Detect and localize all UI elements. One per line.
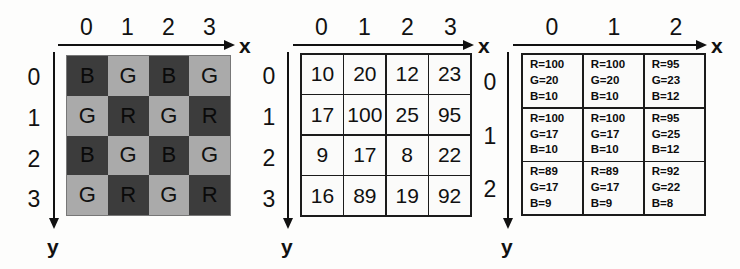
rgb-red-value: R=100 [530,57,564,73]
rgb-green-value: G=17 [530,180,558,196]
rgb-red-value: R=95 [652,57,680,73]
bayer-row-tick-3: 3 [22,188,46,211]
rgb-green-value: G=22 [652,180,680,196]
bayer-col-tick-2: 2 [148,16,189,39]
bayer-x-axis-label: x [239,35,251,56]
value-cell: 22 [429,136,470,175]
rgb-cell: R=100 G=20 B=10 [584,55,643,107]
value-cell: 16 [302,176,343,215]
rgb-y-axis-arrowhead [503,218,513,229]
rgb-blue-value: B=10 [530,142,558,158]
values-y-axis-label: y [281,236,293,257]
bayer-col-tick-1: 1 [107,16,148,39]
bayer-cell: B [67,136,108,176]
bayer-cell: G [108,136,149,176]
bayer-row-tick-2: 2 [22,148,46,171]
values-col-tick-1: 1 [343,16,386,39]
values-row-tick-1: 1 [257,106,281,129]
rgb-red-value: R=89 [530,164,558,180]
values-x-axis-arrowhead [463,40,474,50]
rgb-red-value: R=100 [591,57,625,73]
bayer-col-tick-0: 0 [66,16,107,39]
rgb-green-value: G=17 [591,180,619,196]
bayer-cell: G [189,136,230,176]
rgb-row-tick-1: 1 [478,125,502,148]
rgb-green-value: G=17 [591,127,619,143]
bayer-grid: B G B G G R G R B G B G G R G R [66,55,231,216]
values-y-axis-line [287,52,289,220]
bayer-y-axis-arrowhead [49,218,59,229]
bayer-col-tick-3: 3 [189,16,230,39]
panel-bayer-pattern: 0 1 2 3 x y 0 1 2 3 B G B G G R G R B G … [0,0,260,269]
bayer-x-axis-line [58,44,226,46]
rgb-cell: R=95 G=23 B=12 [645,55,704,107]
rgb-cell: R=100 G=17 B=10 [584,109,643,161]
bayer-row-tick-0: 0 [22,66,46,89]
rgb-green-value: G=25 [652,127,680,143]
bayer-cell: G [108,56,149,96]
value-cell: 19 [387,176,428,215]
rgb-green-value: G=20 [530,73,558,89]
values-row-tick-2: 2 [257,147,281,170]
rgb-blue-value: B=10 [591,142,619,158]
rgb-row-tick-0: 0 [478,71,502,94]
panel-raw-values: 0 1 2 3 x y 0 1 2 3 10 20 12 23 17 100 2… [255,0,490,269]
value-cell: 25 [387,95,428,134]
rgb-col-tick-1: 1 [583,16,645,39]
rgb-blue-value: B=9 [530,196,551,212]
rgb-blue-value: B=10 [530,89,558,105]
bayer-cell: G [149,175,190,215]
rgb-cell: R=92 G=22 B=8 [645,162,704,214]
value-cell: 100 [344,95,385,134]
value-cell: 8 [387,136,428,175]
bayer-cell: R [108,175,149,215]
rgb-cell: R=89 G=17 B=9 [584,162,643,214]
rgb-x-axis-line [513,44,698,46]
bayer-cell: G [67,96,108,136]
value-cell: 89 [344,176,385,215]
values-x-axis-line [293,44,465,46]
rgb-x-axis-arrowhead [696,40,707,50]
panel-rgb-values: 0 1 2 x y 0 1 2 R=100 G=20 B=10 R=100 G=… [488,0,740,269]
rgb-red-value: R=100 [591,111,625,127]
bayer-cell: R [108,96,149,136]
rgb-red-value: R=92 [652,164,680,180]
rgb-col-tick-2: 2 [645,16,707,39]
values-col-tick-2: 2 [386,16,429,39]
rgb-green-value: G=20 [591,73,619,89]
figure-canvas: 0 1 2 3 x y 0 1 2 3 B G B G G R G R B G … [0,0,740,269]
rgb-green-value: G=23 [652,73,680,89]
value-cell: 92 [429,176,470,215]
rgb-blue-value: B=10 [591,89,619,105]
rgb-cell: R=89 G=17 B=9 [523,162,582,214]
rgb-blue-value: B=8 [652,196,673,212]
value-cell: 10 [302,55,343,94]
bayer-cell: B [149,56,190,96]
value-cell: 95 [429,95,470,134]
values-y-axis-arrowhead [283,218,293,229]
rgb-y-axis-label: y [501,236,513,257]
value-cell: 12 [387,55,428,94]
rgb-y-axis-line [507,52,509,220]
rgb-blue-value: B=12 [652,142,680,158]
bayer-cell: G [67,175,108,215]
rgb-red-value: R=95 [652,111,680,127]
rgb-blue-value: B=12 [652,89,680,105]
bayer-cell: R [189,175,230,215]
value-cell: 20 [344,55,385,94]
rgb-cell: R=100 G=17 B=10 [523,109,582,161]
value-cell: 17 [344,136,385,175]
bayer-cell: B [149,136,190,176]
rgb-cell: R=100 G=20 B=10 [523,55,582,107]
values-row-tick-0: 0 [257,65,281,88]
values-row-tick-3: 3 [257,188,281,211]
bayer-x-axis-arrowhead [224,40,235,50]
rgb-green-value: G=17 [530,127,558,143]
bayer-row-tick-1: 1 [22,107,46,130]
rgb-x-axis-label: x [711,35,723,56]
rgb-blue-value: B=9 [591,196,612,212]
bayer-y-axis-label: y [47,236,59,257]
bayer-cell: B [67,56,108,96]
rgb-cell: R=95 G=25 B=12 [645,109,704,161]
rgb-red-value: R=89 [591,164,619,180]
